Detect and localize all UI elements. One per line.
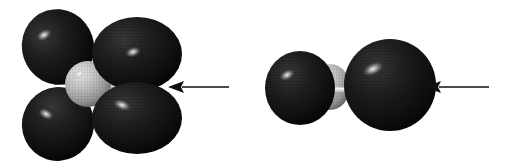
figure-root: Space-filling molecular orbital models w… [0,0,507,163]
sphere-left [265,51,335,125]
sphere-right [344,39,436,131]
lobe-upper-right [92,17,182,91]
lobe-lower-right [92,82,182,154]
molecular-model-diagram [0,0,507,163]
